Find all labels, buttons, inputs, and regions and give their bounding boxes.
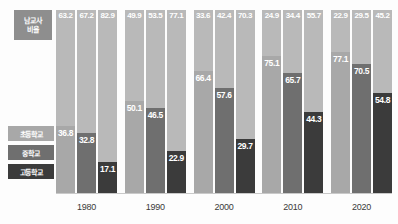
bar-segment-male: 57.6: [215, 88, 234, 193]
x-axis-labels: 19801990200020102020: [56, 197, 392, 219]
bar-value-male: 65.7: [283, 75, 302, 85]
bar-value-male: 46.5: [146, 110, 165, 120]
bar-group-2000: 33.666.442.457.670.329.7: [194, 10, 255, 193]
bar-segment-male: 44.3: [304, 112, 323, 193]
bar-segment-female: 34.4: [283, 10, 302, 73]
bar-value-male: 17.1: [98, 164, 117, 174]
bar-value-male: 29.7: [236, 141, 255, 151]
bar-value-male: 70.5: [352, 66, 371, 76]
bar-2010-elementary: 24.975.1: [262, 10, 281, 193]
stacked-bar-chart: 남교사 비율 초등학교 중학교 고등학교 63.236.867.232.882.…: [0, 0, 398, 224]
legend-item-middle: 중학교: [8, 145, 54, 160]
bar-value-male: 77.1: [331, 54, 350, 64]
bar-value-male: 44.3: [304, 114, 323, 124]
chart-corner-label: 남교사 비율: [14, 10, 52, 40]
bar-value-female: 70.3: [236, 11, 255, 20]
bar-1980-elementary: 63.236.8: [56, 10, 75, 193]
bar-value-male: 50.1: [125, 103, 144, 113]
bar-2000-elementary: 33.666.4: [194, 10, 213, 193]
bar-value-male: 32.8: [77, 135, 96, 145]
bar-segment-female: 55.7: [304, 10, 323, 112]
bar-2010-middle: 34.465.7: [283, 10, 302, 193]
bar-segment-male: 70.5: [352, 64, 371, 193]
bar-segment-female: 45.2: [373, 10, 392, 93]
bar-value-male: 57.6: [215, 90, 234, 100]
bar-value-male: 75.1: [262, 58, 281, 68]
bar-value-female: 55.7: [304, 11, 323, 20]
bar-1990-middle: 53.546.5: [146, 10, 165, 193]
bar-value-male: 22.9: [167, 153, 186, 163]
bar-1990-elementary: 49.950.1: [125, 10, 144, 193]
bar-value-female: 29.5: [352, 11, 371, 20]
legend-item-elementary: 초등학교: [8, 126, 54, 141]
bar-groups: 63.236.867.232.882.917.149.950.153.546.5…: [56, 10, 392, 193]
bar-value-female: 33.6: [194, 11, 213, 20]
bar-segment-male: 65.7: [283, 73, 302, 193]
bar-segment-female: 67.2: [77, 10, 96, 133]
bar-group-1990: 49.950.153.546.577.122.9: [125, 10, 186, 193]
bar-group-2010: 24.975.134.465.755.744.3: [262, 10, 323, 193]
bar-segment-female: 70.3: [236, 10, 255, 139]
bar-value-male: 54.8: [373, 95, 392, 105]
bar-value-female: 53.5: [146, 11, 165, 20]
legend-label-middle: 중학교: [22, 148, 39, 158]
bar-group-1980: 63.236.867.232.882.917.1: [56, 10, 117, 193]
bar-value-female: 45.2: [373, 11, 392, 20]
bar-value-female: 22.9: [331, 11, 350, 20]
x-axis-label-1980: 1980: [56, 197, 117, 219]
bar-segment-female: 24.9: [262, 10, 281, 56]
x-axis-label-1990: 1990: [125, 197, 186, 219]
bar-segment-male: 36.8: [56, 126, 75, 193]
bar-segment-male: 50.1: [125, 101, 144, 193]
legend-label-high: 고등학교: [20, 167, 43, 177]
bar-segment-male: 32.8: [77, 133, 96, 193]
bar-1980-middle: 67.232.8: [77, 10, 96, 193]
bar-value-female: 49.9: [125, 11, 144, 20]
bar-value-female: 34.4: [283, 11, 302, 20]
bar-segment-female: 77.1: [167, 10, 186, 151]
bar-segment-male: 29.7: [236, 139, 255, 193]
bar-value-male: 66.4: [194, 73, 213, 83]
bar-2020-middle: 29.570.5: [352, 10, 371, 193]
bar-value-male: 36.8: [56, 128, 75, 138]
bar-value-female: 63.2: [56, 11, 75, 20]
legend-label-elementary: 초등학교: [20, 129, 43, 139]
bar-segment-female: 82.9: [98, 10, 117, 162]
bar-segment-male: 75.1: [262, 56, 281, 193]
bar-segment-female: 49.9: [125, 10, 144, 101]
bar-segment-female: 22.9: [331, 10, 350, 52]
bar-value-female: 82.9: [98, 11, 117, 20]
bar-2020-elementary: 22.977.1: [331, 10, 350, 193]
bar-1990-high: 77.122.9: [167, 10, 186, 193]
bar-segment-female: 63.2: [56, 10, 75, 126]
bar-value-female: 42.4: [215, 11, 234, 20]
x-axis-label-2010: 2010: [262, 197, 323, 219]
corner-label-line1: 남교사: [24, 16, 41, 25]
bar-segment-male: 17.1: [98, 162, 117, 193]
bar-segment-female: 29.5: [352, 10, 371, 64]
legend-item-high: 고등학교: [8, 164, 54, 179]
bar-2010-high: 55.744.3: [304, 10, 323, 193]
bar-2000-high: 70.329.7: [236, 10, 255, 193]
bar-value-female: 67.2: [77, 11, 96, 20]
corner-label-line2: 비율: [27, 25, 38, 34]
bar-value-female: 24.9: [262, 11, 281, 20]
plot-area: 63.236.867.232.882.917.149.950.153.546.5…: [56, 10, 392, 193]
bar-segment-male: 46.5: [146, 108, 165, 193]
bar-segment-male: 22.9: [167, 151, 186, 193]
bar-segment-male: 66.4: [194, 71, 213, 193]
bar-group-2020: 22.977.129.570.545.254.8: [331, 10, 392, 193]
x-axis-line: [56, 193, 392, 194]
x-axis-label-2000: 2000: [194, 197, 255, 219]
bar-1980-high: 82.917.1: [98, 10, 117, 193]
bar-segment-female: 33.6: [194, 10, 213, 71]
bar-segment-female: 42.4: [215, 10, 234, 88]
bar-segment-male: 77.1: [331, 52, 350, 193]
bar-2020-high: 45.254.8: [373, 10, 392, 193]
x-axis-label-2020: 2020: [331, 197, 392, 219]
bar-2000-middle: 42.457.6: [215, 10, 234, 193]
chart-legend: 초등학교 중학교 고등학교: [8, 126, 54, 183]
bar-segment-male: 54.8: [373, 93, 392, 193]
bar-value-female: 77.1: [167, 11, 186, 20]
bar-segment-female: 53.5: [146, 10, 165, 108]
